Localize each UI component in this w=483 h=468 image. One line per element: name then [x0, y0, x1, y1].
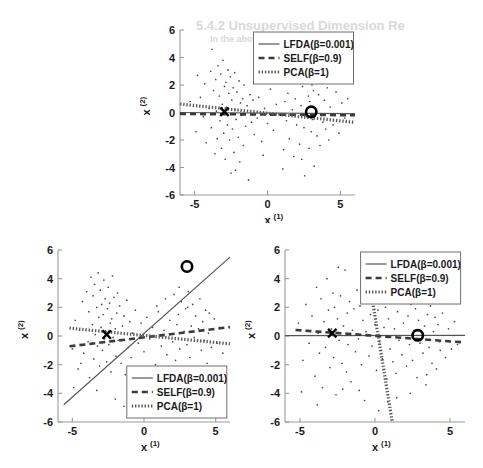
- svg-text:(1): (1): [150, 439, 160, 448]
- series-line-dashed: [180, 114, 355, 115]
- x-tick-label: 0: [264, 198, 270, 210]
- svg-text:(1): (1): [381, 439, 391, 448]
- x-tick-label: 0: [372, 425, 378, 437]
- svg-text:x: x: [245, 332, 257, 339]
- scatter-panel-top: -6-4-20246-505x(1)x(2)LFDA(β=0.001)SELF(…: [140, 8, 370, 223]
- legend-label-pca: PCA(β=1): [157, 401, 202, 412]
- series-line-dotted: [371, 293, 392, 422]
- legend-bottom-left: LFDA(β=0.001)SELF(β=0.9)PCA(β=1): [127, 366, 227, 418]
- y-tick-label: 6: [274, 244, 280, 256]
- y-tick-label: 4: [169, 52, 176, 64]
- figure-page: 5.4.2 Unsupervised Dimension ReIn the ab…: [0, 0, 483, 468]
- svg-text:x: x: [18, 332, 30, 339]
- scatter-panel-bottom-right: -6-4-20246-505x(1)x(2)LFDA(β=0.001)SELF(…: [245, 242, 481, 464]
- y-tick-label: 2: [47, 301, 53, 313]
- plot-area-bottom-right: -6-4-20246-505x(1)x(2)LFDA(β=0.001)SELF(…: [245, 242, 481, 464]
- svg-text:x: x: [141, 441, 148, 453]
- legend-label-lfda: LFDA(β=0.001): [391, 259, 461, 270]
- y-tick-label: 2: [274, 301, 280, 313]
- y-axis-title: x(2): [18, 320, 30, 339]
- y-tick-label: -4: [165, 162, 176, 174]
- x-axis-title: x(1): [264, 212, 283, 223]
- x-tick-label: 5: [213, 425, 219, 437]
- y-tick-label: -2: [165, 134, 175, 146]
- y-axis-title: x(2): [245, 320, 257, 339]
- svg-text:(2): (2): [140, 96, 147, 106]
- y-tick-label: 4: [47, 273, 54, 285]
- x-tick-label: -5: [190, 198, 200, 210]
- x-tick-label: -5: [295, 425, 305, 437]
- scatter-panel-bottom-left: -6-4-20246-505x(1)x(2)LFDA(β=0.001)SELF(…: [18, 242, 243, 464]
- series-line-solid: [180, 113, 355, 114]
- y-axis-title: x(2): [140, 96, 152, 115]
- svg-text:x: x: [264, 214, 271, 223]
- x-tick-label: 5: [337, 198, 343, 210]
- svg-text:(2): (2): [18, 320, 25, 330]
- legend-label-self: SELF(β=0.9): [391, 273, 449, 284]
- y-tick-label: 4: [274, 273, 281, 285]
- series-line-dotted: [69, 328, 230, 344]
- y-tick-label: 2: [169, 79, 175, 91]
- y-tick-label: 6: [169, 24, 175, 36]
- legend-bottom-right: LFDA(β=0.001)SELF(β=0.9)PCA(β=1): [361, 252, 461, 304]
- svg-text:x: x: [140, 109, 152, 116]
- y-tick-label: -2: [270, 359, 280, 371]
- y-tick-label: 0: [169, 107, 175, 119]
- svg-text:(2): (2): [245, 320, 252, 330]
- legend-top: LFDA(β=0.001)SELF(β=0.9)PCA(β=1): [254, 32, 354, 84]
- svg-text:(1): (1): [274, 212, 284, 221]
- svg-text:x: x: [372, 441, 379, 453]
- y-tick-label: -6: [165, 189, 175, 201]
- legend-label-self: SELF(β=0.9): [284, 53, 342, 64]
- x-tick-label: 5: [447, 425, 453, 437]
- legend-label-pca: PCA(β=1): [391, 287, 436, 298]
- y-tick-label: -4: [43, 387, 54, 399]
- y-tick-label: -6: [43, 416, 53, 428]
- legend-label-pca: PCA(β=1): [284, 67, 329, 78]
- y-tick-label: 0: [274, 330, 280, 342]
- x-axis-title: x(1): [141, 439, 160, 453]
- x-tick-label: 0: [141, 425, 147, 437]
- y-tick-label: 0: [47, 330, 53, 342]
- legend-label-self: SELF(β=0.9): [157, 387, 215, 398]
- legend-label-lfda: LFDA(β=0.001): [157, 373, 227, 384]
- x-axis-title: x(1): [372, 439, 391, 453]
- x-tick-label: -5: [67, 425, 77, 437]
- y-tick-label: 6: [47, 244, 53, 256]
- y-tick-label: -2: [43, 359, 53, 371]
- plot-area-top: -6-4-20246-505x(1)x(2)LFDA(β=0.001)SELF(…: [140, 8, 370, 223]
- plot-area-bottom-left: -6-4-20246-505x(1)x(2)LFDA(β=0.001)SELF(…: [18, 242, 243, 464]
- class-marker-circle: [182, 261, 192, 271]
- y-tick-label: -4: [270, 387, 281, 399]
- legend-label-lfda: LFDA(β=0.001): [284, 39, 354, 50]
- y-tick-label: -6: [270, 416, 280, 428]
